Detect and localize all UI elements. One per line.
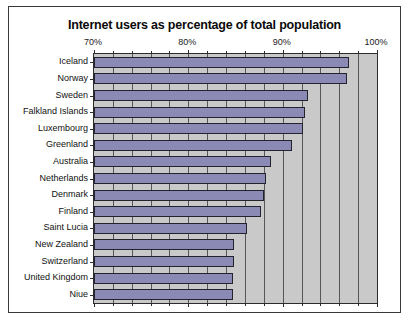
category-label: Finland bbox=[58, 206, 88, 216]
bar bbox=[94, 173, 266, 184]
category-label: Greenland bbox=[46, 139, 88, 149]
x-axis-minor-tick bbox=[169, 303, 170, 306]
bar bbox=[94, 223, 247, 234]
x-axis-minor-tick bbox=[245, 303, 246, 306]
plot-area bbox=[93, 53, 378, 304]
category-label: Denmark bbox=[51, 189, 88, 199]
bar bbox=[94, 90, 308, 101]
x-axis-minor-tick bbox=[226, 303, 227, 306]
bar bbox=[94, 123, 303, 134]
category-label: Sweden bbox=[55, 90, 88, 100]
x-tick-label: 70% bbox=[84, 37, 102, 47]
y-axis-tick bbox=[90, 112, 94, 113]
x-axis-major-tick bbox=[94, 303, 95, 307]
x-axis-minor-tick bbox=[169, 51, 170, 54]
x-axis-minor-tick bbox=[207, 51, 208, 54]
category-label: Netherlands bbox=[39, 173, 88, 183]
x-axis-minor-tick bbox=[320, 303, 321, 306]
x-axis-minor-tick bbox=[358, 303, 359, 306]
x-axis-minor-tick bbox=[226, 51, 227, 54]
x-axis-major-tick bbox=[188, 303, 189, 307]
x-tick-label: 90% bbox=[273, 37, 291, 47]
x-axis-tick-labels: 70%80%90%100% bbox=[9, 37, 402, 51]
x-axis-minor-tick bbox=[320, 51, 321, 54]
bar bbox=[94, 73, 347, 84]
gridline bbox=[320, 54, 321, 303]
category-label: United Kingdom bbox=[24, 272, 88, 282]
chart-frame: Internet users as percentage of total po… bbox=[8, 6, 401, 313]
y-axis-tick bbox=[90, 179, 94, 180]
category-label: Niue bbox=[69, 289, 88, 299]
x-axis-minor-tick bbox=[113, 51, 114, 54]
x-axis-minor-tick bbox=[113, 303, 114, 306]
category-label: Falkland Islands bbox=[23, 106, 88, 116]
y-axis-tick bbox=[90, 162, 94, 163]
x-axis-minor-tick bbox=[302, 303, 303, 306]
x-axis-minor-tick bbox=[339, 51, 340, 54]
bar bbox=[94, 156, 271, 167]
y-axis-tick bbox=[90, 245, 94, 246]
x-axis-major-tick bbox=[94, 50, 95, 54]
y-axis-tick bbox=[90, 228, 94, 229]
y-axis-tick bbox=[90, 62, 94, 63]
x-axis-minor-tick bbox=[264, 303, 265, 306]
x-axis-major-tick bbox=[283, 50, 284, 54]
x-axis-major-tick bbox=[377, 50, 378, 54]
y-axis-tick bbox=[90, 79, 94, 80]
category-label: Luxembourg bbox=[38, 123, 88, 133]
bar bbox=[94, 107, 305, 118]
y-axis-category-labels: IcelandNorwaySwedenFalkland IslandsLuxem… bbox=[9, 53, 91, 302]
bar bbox=[94, 289, 233, 300]
x-tick-label: 100% bbox=[364, 37, 387, 47]
bar bbox=[94, 140, 292, 151]
y-axis-tick bbox=[90, 129, 94, 130]
y-axis-tick bbox=[90, 212, 94, 213]
y-axis-tick bbox=[90, 96, 94, 97]
y-axis-tick bbox=[90, 145, 94, 146]
x-axis-minor-tick bbox=[302, 51, 303, 54]
x-tick-label: 80% bbox=[178, 37, 196, 47]
x-axis-minor-tick bbox=[245, 51, 246, 54]
chart-title: Internet users as percentage of total po… bbox=[9, 18, 400, 32]
bar bbox=[94, 239, 234, 250]
category-label: Saint Lucia bbox=[43, 222, 88, 232]
x-axis-minor-tick bbox=[132, 51, 133, 54]
x-axis-major-tick bbox=[188, 50, 189, 54]
category-label: New Zealand bbox=[35, 239, 88, 249]
bar bbox=[94, 190, 264, 201]
category-label: Norway bbox=[57, 73, 88, 83]
bar bbox=[94, 273, 233, 284]
x-axis-minor-tick bbox=[207, 303, 208, 306]
bar bbox=[94, 206, 261, 217]
bar bbox=[94, 57, 349, 68]
gridline bbox=[358, 54, 359, 303]
x-axis-major-tick bbox=[283, 303, 284, 307]
x-axis-major-tick bbox=[377, 303, 378, 307]
x-axis-minor-tick bbox=[264, 51, 265, 54]
y-axis-tick bbox=[90, 295, 94, 296]
gridline bbox=[339, 54, 340, 303]
x-axis-minor-tick bbox=[132, 303, 133, 306]
category-label: Australia bbox=[53, 156, 88, 166]
category-label: Iceland bbox=[59, 56, 88, 66]
category-label: Switzerland bbox=[41, 256, 88, 266]
x-axis-minor-tick bbox=[151, 303, 152, 306]
x-axis-minor-tick bbox=[339, 303, 340, 306]
x-axis-minor-tick bbox=[151, 51, 152, 54]
x-axis-minor-tick bbox=[358, 51, 359, 54]
y-axis-tick bbox=[90, 278, 94, 279]
bar bbox=[94, 256, 234, 267]
y-axis-tick bbox=[90, 262, 94, 263]
y-axis-tick bbox=[90, 195, 94, 196]
